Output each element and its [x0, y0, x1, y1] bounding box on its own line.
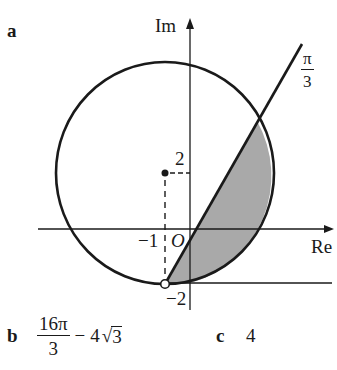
real-axis-arrow-icon — [324, 225, 334, 233]
ray-angle-num: π — [301, 50, 314, 70]
real-axis-label: Re — [311, 236, 332, 258]
imaginary-axis-arrow-icon — [186, 18, 194, 29]
part-b-frac-num: 16π — [37, 314, 70, 336]
open-endpoint — [161, 280, 170, 289]
part-b-radicand: 3 — [111, 326, 122, 347]
ray-angle-label: π 3 — [301, 50, 314, 90]
shaded-region — [165, 121, 271, 284]
part-b-label: b — [7, 325, 18, 347]
part-b-minus: − — [75, 325, 86, 347]
part-b-answer: 16π 3 − 4 √ 3 — [37, 314, 122, 358]
ray-angle-den: 3 — [303, 70, 312, 90]
tick-label-y-neg2: −2 — [166, 288, 186, 310]
part-b-frac-den: 3 — [49, 336, 59, 358]
part-c-answer: 4 — [246, 325, 256, 347]
origin-label: O — [171, 230, 185, 252]
tick-label-x-neg1: −1 — [138, 230, 158, 252]
imaginary-axis-label: Im — [155, 15, 176, 37]
centre-point — [162, 170, 169, 177]
tick-label-y-2: 2 — [175, 148, 185, 170]
part-c-label: c — [216, 325, 224, 347]
part-b-coef: 4 — [90, 325, 100, 347]
part-a-label: a — [7, 20, 17, 42]
